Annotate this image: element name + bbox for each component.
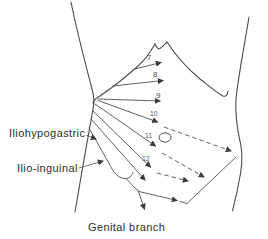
nerve-10-line [98,101,158,123]
nerve-10-dashed-line [164,127,231,151]
nerve-7-label: 7 [147,53,152,62]
nerve-11-dashed-line [162,153,204,177]
nerve-9-label: 9 [156,91,161,100]
nerve-12-dashed-line [157,173,188,181]
umbilicus [159,133,171,142]
ilio-inguinal-branch-line [126,179,137,191]
nerve-10-label: 10 [150,110,158,117]
ilio-inguinal-nerve-line [89,128,133,179]
ilio-inguinal-label: Ilio-inguinal [17,162,78,174]
nerve-9-line [98,99,160,101]
iliohypogastric-label: Iliohypogastric [9,127,85,139]
iliohypogastric-nerve-line [91,119,145,180]
abdominal-nerve-figure: 7 8 9 10 11 12 Iliohypogastric Ilio-ingu… [0,0,268,239]
genital-branch-label: Genital branch [88,221,165,233]
inguinal-line-right [180,157,236,204]
inguinal-line-left [139,192,177,201]
right-body-contour [233,17,250,211]
nerve-12-label: 12 [142,155,150,162]
nerve-11-label: 11 [145,132,152,139]
left-body-contour [71,2,94,212]
nerve-8-label: 8 [153,70,158,79]
anatomical-diagram: 7 8 9 10 11 12 Iliohypogastric Ilio-ingu… [0,0,268,239]
